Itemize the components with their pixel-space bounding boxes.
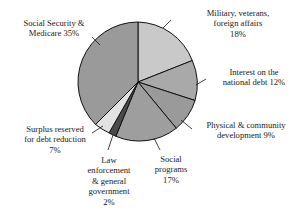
pie-label-law-enforcement: Law enforcement & general government 2% xyxy=(78,155,140,207)
leader-line-law-enforcement xyxy=(108,135,113,150)
leader-line-physical xyxy=(181,120,192,129)
leader-line-social-programs xyxy=(154,138,160,150)
pie-chart-figure: Military, veterans, foreign affairs 18% … xyxy=(0,0,300,221)
pie-label-social-programs: Social programs 17% xyxy=(140,154,202,185)
leader-line-military xyxy=(163,20,171,28)
pie-label-interest: Interest on the national debt 12% xyxy=(208,67,300,88)
pie-label-military: Military, veterans, foreign affairs 18% xyxy=(176,8,300,39)
pie-label-surplus: Surplus reserved for debt reduction 7% xyxy=(2,124,108,155)
pie-label-social-security: Social Security & Medicare 35% xyxy=(2,18,106,39)
pie-label-physical: Physical & community development 9% xyxy=(192,120,300,141)
